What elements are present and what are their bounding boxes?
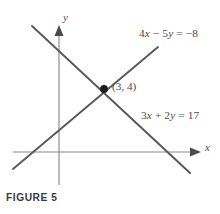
y-axis-label: y	[63, 12, 68, 23]
y-axis-arrow-icon	[55, 25, 64, 36]
intersection-point-label: (3, 4)	[112, 81, 136, 92]
equation-label-top-text: 4x − 5y = −8	[139, 27, 198, 39]
equation-label-bottom: 3x + 2y = 17	[141, 110, 199, 121]
line-4x-5y-eq-neg8	[13, 47, 158, 169]
x-axis-label: x	[205, 142, 210, 153]
equation-label-top: 4x − 5y = −8	[139, 28, 198, 39]
figure-caption: FIGURE 5	[6, 192, 57, 203]
figure-container: 4x − 5y = −8 3x + 2y = 17 (3, 4) y x FIG…	[0, 0, 220, 214]
line-3x-2y-eq-17	[32, 26, 190, 173]
intersection-point-dot	[100, 85, 108, 93]
equation-label-bottom-text: 3x + 2y = 17	[141, 109, 199, 121]
x-axis-arrow-icon	[190, 148, 201, 157]
